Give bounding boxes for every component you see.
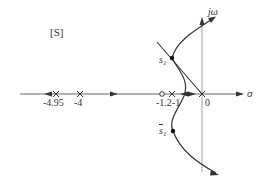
s1-point-dot-icon bbox=[170, 56, 174, 60]
real-axis-label: σ bbox=[247, 88, 252, 99]
s1-label: s1 bbox=[159, 55, 166, 67]
asymptote-line bbox=[157, 42, 202, 94]
lower-branch-arrow-icon bbox=[210, 170, 219, 176]
branch-arrow-left-icon bbox=[44, 92, 52, 97]
origin-label: 0 bbox=[205, 98, 210, 108]
real-axis-arrow-icon bbox=[236, 92, 244, 97]
lower-locus-branch bbox=[173, 131, 216, 173]
zero-pole-label-neg1-2-neg1: -1.2-1 bbox=[156, 98, 180, 108]
imag-axis-arrow-icon bbox=[200, 17, 205, 25]
plane-label: [S] bbox=[50, 27, 63, 38]
zero-circle-icon bbox=[160, 92, 165, 97]
s1-conjugate-point-dot-icon bbox=[171, 129, 175, 133]
root-locus-plot bbox=[0, 0, 266, 182]
s1-label-subscript: 1 bbox=[163, 59, 167, 67]
branch-arrow-right-icon bbox=[110, 92, 118, 97]
pole-label-neg4-95: -4.95 bbox=[43, 98, 64, 108]
imag-axis-label: jω bbox=[208, 7, 218, 17]
s1-conjugate-label: s1 bbox=[159, 126, 166, 138]
pole-label-neg4: -4 bbox=[74, 98, 82, 108]
upper-locus-branch bbox=[172, 18, 214, 58]
s1-conjugate-label-subscript: 1 bbox=[163, 130, 167, 138]
upper-branch-arrow-icon bbox=[208, 17, 216, 24]
root-locus-diagram: [S] jω σ 0 -4.95 -4 -1.2-1 s1 s1 bbox=[0, 0, 266, 182]
branch-arrow-mid-right-icon bbox=[188, 92, 196, 97]
